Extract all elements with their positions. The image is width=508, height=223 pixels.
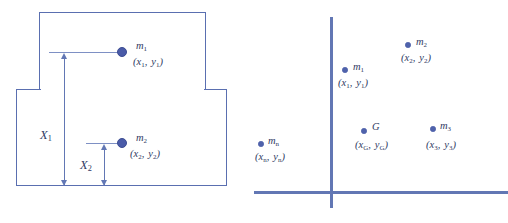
m1-leader-line — [49, 52, 122, 53]
mn-marker — [258, 141, 264, 147]
x2-dimension-arrowhead-bottom — [101, 180, 107, 186]
m3-marker — [430, 126, 436, 132]
m1-coordinates-label: (x1,y1) — [338, 77, 368, 89]
m3-label: m3 — [440, 120, 451, 132]
composite-body-elevation-panel: m1 (x1,y1) m2 (x2,y2) X1 X2 — [0, 0, 254, 223]
mn-coordinates-label: (xn,yn) — [255, 151, 285, 163]
m1-label: m1 — [353, 61, 364, 73]
m1-marker — [117, 47, 127, 57]
m1-label: m1 — [136, 40, 147, 52]
x1-dimension-label: X1 — [40, 128, 52, 142]
x1-dimension-arrowhead-top — [61, 53, 67, 59]
figure-root: m1 (x1,y1) m2 (x2,y2) X1 X2 — [0, 0, 508, 223]
m2-coordinates-label: (x2,y2) — [401, 52, 431, 64]
x2-dimension-label: X2 — [80, 158, 92, 172]
m2-label: m2 — [416, 36, 427, 48]
discrete-mass-coordinate-panel: mn (xn,yn) m1 (x1,y1) m2 (x2,y2) G (xG,y… — [254, 0, 508, 223]
m1-marker — [342, 67, 348, 73]
m2-coordinates-label: (x2,y2) — [130, 148, 160, 160]
m1-coordinates-label: (x1,y1) — [133, 56, 163, 68]
centroid-coordinates-label: (xG,yG) — [355, 139, 388, 151]
centroid-label: G — [372, 121, 380, 133]
horizontal-axis — [254, 191, 508, 194]
x2-dimension-arrowhead-top — [101, 144, 107, 150]
vertical-axis — [330, 17, 333, 208]
x1-dimension-shaft — [64, 55, 65, 185]
centroid-marker — [361, 128, 367, 134]
mn-label: mn — [268, 135, 279, 147]
m2-label: m2 — [136, 132, 147, 144]
m2-marker — [117, 138, 127, 148]
block-junction-mask — [41, 88, 204, 91]
m3-coordinates-label: (x3,y3) — [426, 139, 456, 151]
m2-marker — [405, 42, 411, 48]
x1-dimension-arrowhead-bottom — [61, 180, 67, 186]
